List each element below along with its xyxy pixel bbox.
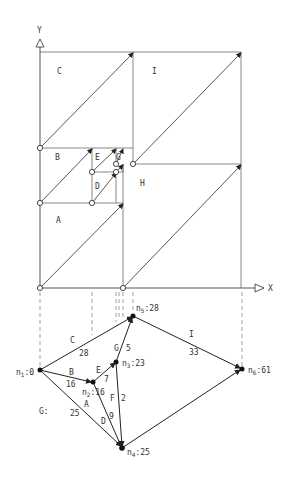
node-n1 xyxy=(38,368,43,373)
edge-name-c: C xyxy=(70,336,75,345)
node-n4 xyxy=(119,445,125,451)
region-label-g: G xyxy=(116,153,121,162)
node-n2 xyxy=(91,380,96,385)
node-label-n6: n6:61 xyxy=(248,366,271,376)
node-labels: n1:0 n2:16 n3:23 n4:25 n5:28 n6:61 xyxy=(16,304,271,458)
x-axis: X xyxy=(40,284,273,293)
node-n5 xyxy=(131,314,136,319)
x-axis-arrow-icon xyxy=(255,284,264,292)
edge-name-d: D xyxy=(101,417,106,426)
node-label-n3: n3:23 xyxy=(122,359,145,369)
edge-name-f: F xyxy=(110,394,115,403)
edge-weight-b: 16 xyxy=(66,380,76,389)
diagram-canvas: Y X xyxy=(0,0,289,481)
edge-weight-d: 9 xyxy=(109,412,114,421)
edge-labels: C 28 B 16 A 25 E 7 D 9 G 5 F 2 I 33 xyxy=(66,330,199,426)
graph-name: G: xyxy=(39,407,49,416)
region-label-d: D xyxy=(95,182,100,191)
y-axis: Y xyxy=(36,26,44,290)
edge-name-b: B xyxy=(69,368,74,377)
y-axis-label: Y xyxy=(37,26,42,35)
node-label-n1: n1:0 xyxy=(16,368,34,378)
region-label-a: A xyxy=(56,216,61,225)
edge-weight-f: 2 xyxy=(121,394,126,403)
edge-weight-i: 33 xyxy=(189,348,199,357)
node-n3 xyxy=(114,360,119,365)
region-labels: C I B E G D H A xyxy=(55,67,157,225)
region-diagonals xyxy=(40,53,241,288)
region-label-c: C xyxy=(57,67,62,76)
region-boxes xyxy=(40,52,241,288)
y-axis-arrow-icon xyxy=(36,39,44,47)
edge-name-e: E xyxy=(96,366,101,375)
edge-name-g: G xyxy=(114,344,119,353)
node-label-n5: n5:28 xyxy=(136,304,159,314)
node-n6 xyxy=(240,367,245,372)
region-label-e: E xyxy=(95,153,100,162)
edge-weight-g: 5 xyxy=(126,344,131,353)
node-label-n2: n2:16 xyxy=(82,388,105,398)
edge-weight-c: 28 xyxy=(79,349,89,358)
edge-weight-a: 25 xyxy=(70,409,80,418)
region-label-b: B xyxy=(55,153,60,162)
edge-name-a: A xyxy=(84,400,89,409)
x-axis-label: X xyxy=(268,284,273,293)
edge-name-i: I xyxy=(189,330,194,339)
projection-lines xyxy=(40,292,242,367)
region-label-i: I xyxy=(152,67,157,76)
node-label-n4: n4:25 xyxy=(127,448,150,458)
edge-weight-e: 7 xyxy=(104,375,109,384)
region-label-h: H xyxy=(140,179,145,188)
